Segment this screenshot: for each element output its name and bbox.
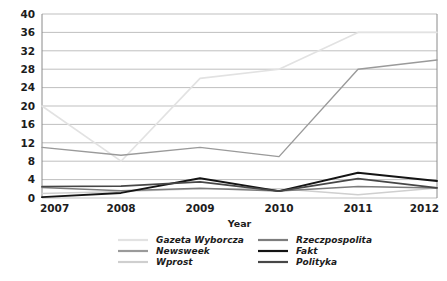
y-axis-tick-label: 20 [20,100,35,112]
y-axis-tick-label: 36 [20,26,35,38]
y-axis-tick-label: 0 [28,192,35,204]
legend-label-wprost: Wprost [156,257,193,267]
legend-label-gazeta-wyborcza: Gazeta Wyborcza [156,235,244,245]
y-axis-tick-label: 4 [28,173,35,185]
x-axis-tick-label: 2009 [185,202,214,214]
y-axis-tick-label: 8 [28,155,35,167]
x-axis-tick-label: 2011 [343,202,372,214]
chart-canvas: 0481216202428323640 20072008200920102011… [0,0,447,281]
y-axis-tick-label: 40 [20,8,35,20]
x-axis-title-text: Year [227,218,252,229]
x-axis-tick-label: 2012 [410,202,439,214]
x-axis-title: Year [227,218,252,229]
legend-label-newsweek: Newsweek [156,246,211,256]
legend-label-fakt: Fakt [296,246,318,256]
x-axis-tick-label: 2010 [264,202,293,214]
x-axis-tick-label: 2007 [40,202,69,214]
y-axis-tick-label: 28 [20,63,35,75]
line-chart: 0481216202428323640 20072008200920102011… [0,0,447,281]
x-axis-tick-label: 2008 [106,202,135,214]
y-axis-tick-label: 32 [20,45,35,57]
legend-label-polityka: Polityka [296,257,337,267]
y-axis-tick-label: 12 [20,137,35,149]
y-axis-tick-label: 24 [20,81,35,93]
legend-label-rzeczpospolita: Rzeczpospolita [296,235,372,245]
y-axis-tick-label: 16 [20,118,35,130]
